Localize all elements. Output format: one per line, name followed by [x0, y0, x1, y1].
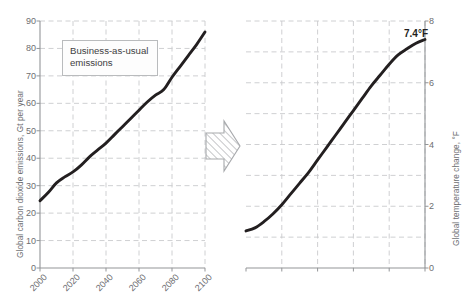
- x-tick-label: 2040: [87, 272, 115, 300]
- y-tick-label: 4: [429, 140, 434, 150]
- x-tick-label: 2020: [54, 272, 82, 300]
- y-tick-label: 8: [429, 16, 434, 26]
- temperature-chart-panel: 02468 200020202040206020802100 Temperatu…: [232, 0, 467, 304]
- y-tick-label: 90: [26, 16, 36, 26]
- y-tick-label: 0: [31, 263, 36, 273]
- y-tick-label: 6: [429, 78, 434, 88]
- y-tick-label: 30: [26, 181, 36, 191]
- business-as-usual-callout: Business-as-usual emissions: [62, 40, 158, 76]
- y-tick-label: 40: [26, 153, 36, 163]
- y-tick-label: 50: [26, 126, 36, 136]
- left-x-tick-labels: 200020202040206020802100: [40, 272, 205, 304]
- y-tick-label: 80: [26, 43, 36, 53]
- right-y-tick-labels: 02468: [429, 21, 453, 268]
- y-tick-label: 2: [429, 201, 434, 211]
- x-tick-label: 2000: [459, 272, 467, 300]
- y-tick-label: 10: [26, 236, 36, 246]
- y-tick-label: 60: [26, 98, 36, 108]
- right-y-axis-title: Global temperature change, °F: [452, 131, 461, 246]
- end-value-annotation: 7.4°F: [404, 28, 428, 39]
- y-tick-label: 20: [26, 208, 36, 218]
- left-y-tick-labels: 0102030405060708090: [14, 21, 36, 268]
- y-tick-label: 70: [26, 71, 36, 81]
- x-tick-label: 2000: [21, 272, 49, 300]
- x-tick-label: 2060: [120, 272, 148, 300]
- y-tick-label: 0: [429, 263, 434, 273]
- figure-canvas: Global carbon dioxide emissions, Gt per …: [0, 0, 467, 304]
- x-tick-label: 2080: [153, 272, 181, 300]
- temperature-plot-area: [246, 21, 425, 268]
- emissions-chart-panel: Global carbon dioxide emissions, Gt per …: [0, 0, 215, 304]
- x-tick-label: 2100: [186, 272, 214, 300]
